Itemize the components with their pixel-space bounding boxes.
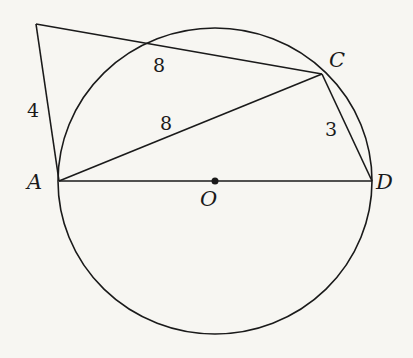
center-point-o: [212, 178, 219, 185]
label-length-ec: 8: [153, 56, 165, 75]
label-length-pa: 4: [27, 101, 39, 120]
label-point-o: O: [200, 189, 217, 210]
chord-ac: [59, 74, 322, 181]
diagram-canvas: [0, 0, 413, 358]
geometry-diagram: A D O C 4 8 8 3: [0, 0, 413, 358]
label-point-c: C: [329, 50, 345, 71]
label-length-ac: 8: [160, 114, 172, 133]
label-length-cd: 3: [325, 120, 337, 139]
label-point-d: D: [376, 172, 393, 193]
segment-pa: [36, 24, 59, 181]
label-point-a: A: [27, 172, 42, 193]
